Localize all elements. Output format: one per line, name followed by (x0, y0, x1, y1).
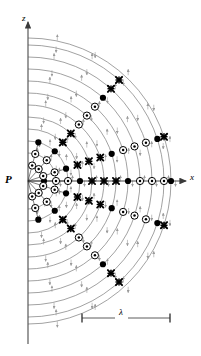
z-axis-label: z (22, 13, 26, 23)
symbol-x-ray-up-15-3 (74, 162, 80, 168)
symbol-odot-ray-down-45-0 (35, 189, 42, 196)
symbol-x-ray-down-15-3 (74, 194, 80, 200)
symbol-odot-ray-down-45-5 (75, 234, 82, 241)
symbol-odot-ray-down-75-0 (29, 193, 36, 200)
symbol-dot-ray-down-75-2 (35, 217, 41, 223)
symbol-dot-ray-axis-right-3 (77, 178, 83, 184)
wavelength-label: λ (119, 307, 123, 317)
symbol-odot-ray-down-15-8 (131, 212, 138, 219)
source-point-label: P (5, 173, 12, 185)
symbol-odot-ray-up-15-7 (120, 146, 127, 153)
symbol-dot-ray-down-45-8 (100, 261, 106, 267)
symbol-x-ray-up-15-5 (97, 154, 103, 160)
symbol-x-ray-axis-right-5 (101, 178, 107, 184)
symbol-dot-ray-down-15-2 (63, 190, 69, 196)
symbol-odot-ray-up-15-0 (40, 172, 47, 179)
symbol-odot-ray-up-45-6 (83, 112, 90, 119)
symbol-odot-ray-down-15-1 (51, 186, 58, 193)
symbol-odot-ray-down-45-6 (83, 243, 90, 250)
symbol-dot-ray-up-15-2 (63, 166, 69, 172)
symbol-odot-ray-up-15-1 (51, 169, 58, 176)
symbol-odot-ray-up-45-7 (91, 103, 98, 110)
symbol-odot-ray-up-75-1 (32, 150, 39, 157)
symbol-dot-ray-axis-right-7 (125, 178, 131, 184)
symbol-odot-ray-axis-right-1 (52, 177, 59, 184)
symbol-x-ray-up-45-9 (108, 86, 114, 92)
symbol-x-ray-up-45-4 (68, 130, 74, 136)
symbol-dot-ray-up-45-2 (52, 148, 58, 154)
symbol-x-ray-up-45-10 (116, 77, 122, 83)
symbol-odot-ray-up-45-0 (35, 166, 42, 173)
symbol-odot-ray-axis-right-2 (64, 177, 71, 184)
symbol-dot-ray-down-15-10 (154, 220, 160, 226)
symbol-odot-ray-down-15-7 (120, 208, 127, 215)
symbol-odot-ray-down-75-1 (32, 204, 39, 211)
symbol-odot-ray-axis-right-9 (148, 177, 155, 184)
radiation-pattern-figure (0, 0, 201, 356)
symbol-dot-ray-up-15-10 (154, 136, 160, 142)
symbol-x-ray-up-45-3 (60, 139, 66, 145)
symbol-odot-ray-up-45-5 (75, 121, 82, 128)
symbol-odot-ray-up-15-9 (142, 139, 149, 146)
symbol-dot-ray-down-15-6 (109, 205, 115, 211)
symbol-x-ray-down-15-11 (161, 222, 167, 228)
symbol-dot-ray-axis-right-11 (168, 178, 174, 184)
symbol-x-ray-down-15-5 (97, 201, 103, 207)
symbol-odot-ray-axis-right-10 (160, 177, 167, 184)
symbol-odot-ray-down-15-0 (40, 182, 47, 189)
symbol-dot-ray-up-15-6 (109, 151, 115, 157)
symbol-odot-ray-up-75-0 (29, 162, 36, 169)
symbol-dot-ray-down-45-2 (52, 208, 58, 214)
x-axis-label: x (190, 172, 194, 182)
symbol-odot-ray-up-15-8 (131, 143, 138, 150)
symbol-odot-ray-axis-right-8 (136, 177, 143, 184)
symbol-x-ray-axis-right-6 (113, 178, 119, 184)
symbol-odot-ray-down-15-9 (142, 216, 149, 223)
symbol-x-ray-up-15-4 (86, 158, 92, 164)
symbol-x-ray-axis-right-4 (89, 178, 95, 184)
symbol-odot-ray-down-45-7 (91, 252, 98, 259)
symbol-dot-ray-up-45-8 (100, 95, 106, 101)
symbol-x-ray-down-45-9 (108, 270, 114, 276)
symbol-dot-ray-up-75-2 (35, 139, 41, 145)
symbol-x-ray-down-45-4 (68, 225, 74, 231)
symbol-x-ray-up-15-11 (161, 134, 167, 140)
symbol-odot-ray-up-45-1 (43, 157, 50, 164)
wavelength-scale-bar (82, 312, 170, 324)
symbol-x-ray-down-45-3 (60, 217, 66, 223)
symbol-x-ray-down-45-10 (116, 279, 122, 285)
symbol-odot-ray-down-45-1 (43, 198, 50, 205)
symbol-x-ray-down-15-4 (86, 198, 92, 204)
